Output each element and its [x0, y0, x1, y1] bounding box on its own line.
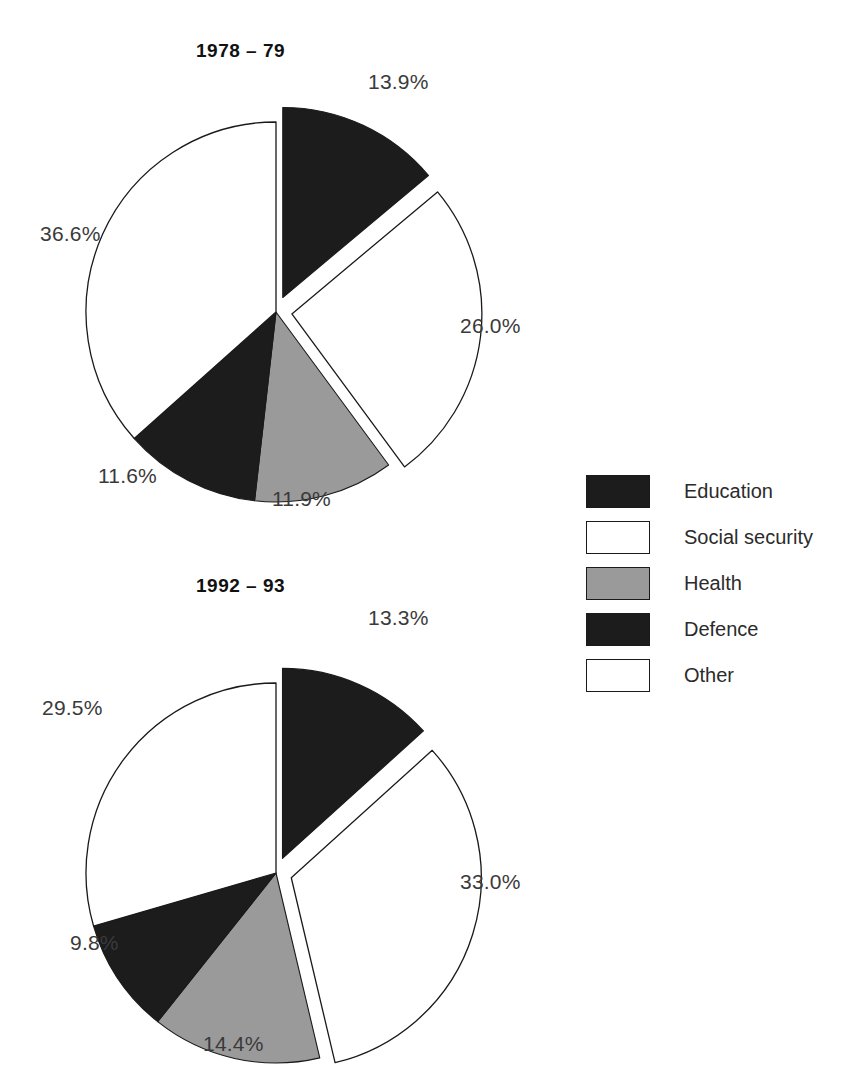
legend-item-defence[interactable]: Defence [586, 606, 848, 652]
pie-chart-1978-79: 1978 – 79 13.9% 26.0% 11.9% 11.6% 36.6% [0, 0, 600, 540]
figure-canvas: 1978 – 79 13.9% 26.0% 11.9% 11.6% 36.6% … [0, 0, 850, 1085]
legend-label-other: Other [684, 664, 734, 687]
legend-item-social-security[interactable]: Social security [586, 514, 848, 560]
slice-label-social-security: 33.0% [460, 870, 521, 894]
legend-item-education[interactable]: Education [586, 468, 848, 514]
legend-label-health: Health [684, 572, 742, 595]
slice-label-education: 13.9% [368, 70, 429, 94]
legend-swatch-education [586, 475, 650, 508]
legend-swatch-other [586, 659, 650, 692]
slice-label-defence: 9.8% [70, 931, 119, 955]
pie-svg-1992-93 [0, 548, 600, 1085]
legend-label-defence: Defence [684, 618, 759, 641]
slice-label-health: 11.9% [272, 487, 331, 511]
legend-item-other[interactable]: Other [586, 652, 848, 698]
slice-label-other: 29.5% [42, 696, 103, 720]
slice-label-health: 14.4% [203, 1032, 264, 1056]
legend-swatch-defence [586, 613, 650, 646]
legend-swatch-health [586, 567, 650, 600]
slice-label-education: 13.3% [368, 606, 429, 630]
pie-svg-1978-79 [0, 0, 600, 540]
legend-label-social-security: Social security [684, 526, 813, 549]
slice-label-defence: 11.6% [98, 464, 157, 488]
legend: Education Social security Health Defence… [586, 468, 848, 698]
legend-swatch-social-security [586, 521, 650, 554]
legend-item-health[interactable]: Health [586, 560, 848, 606]
legend-label-education: Education [684, 480, 773, 503]
slice-label-social-security: 26.0% [460, 314, 521, 338]
slice-label-other: 36.6% [40, 222, 101, 246]
pie-chart-1992-93: 1992 – 93 13.3% 33.0% 14.4% 9.8% 29.5% [0, 548, 600, 1085]
